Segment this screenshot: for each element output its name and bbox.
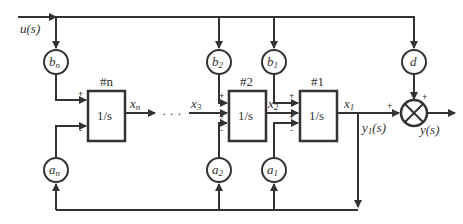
block-n-tf: 1/s: [97, 108, 112, 123]
gain-bn-label: bn: [49, 54, 61, 70]
svg-text:-: -: [290, 125, 293, 135]
output-label: y(s): [418, 122, 440, 137]
state-space-block-diagram: u(s) bn b2 b1 d an a2 a1 #n #2 #1 1/s 1/…: [0, 0, 463, 224]
svg-text:-: -: [220, 125, 223, 135]
svg-text:+: +: [78, 89, 83, 99]
gain-a1-label: a1: [267, 162, 278, 178]
state-x2-label: x2: [267, 96, 279, 112]
block-2-tf: 1/s: [238, 108, 253, 123]
svg-text:+: +: [387, 101, 392, 111]
block-1-id: #1: [311, 74, 324, 89]
gain-a2-label: a2: [212, 162, 224, 178]
svg-text:+: +: [289, 91, 294, 101]
input-label: u(s): [20, 21, 40, 36]
state-x3-label: x3: [190, 96, 202, 112]
ellipsis: · · ·: [162, 106, 182, 121]
svg-text:+: +: [219, 91, 224, 101]
svg-text:+: +: [219, 112, 224, 122]
block-n-id: #n: [100, 74, 114, 89]
gain-an-label: an: [49, 162, 61, 178]
svg-text:-: -: [79, 125, 82, 135]
svg-text:+: +: [289, 112, 294, 122]
y1-label: y1(s): [360, 120, 386, 136]
state-x1-label: x1: [343, 96, 354, 112]
block-1-tf: 1/s: [309, 108, 324, 123]
gain-b1-label: b1: [267, 54, 278, 70]
svg-text:+: +: [422, 92, 427, 102]
gain-d-label: d: [410, 54, 417, 69]
state-xn-label: xn: [129, 96, 141, 112]
block-2-id: #2: [240, 74, 253, 89]
gain-b2-label: b2: [212, 54, 224, 70]
